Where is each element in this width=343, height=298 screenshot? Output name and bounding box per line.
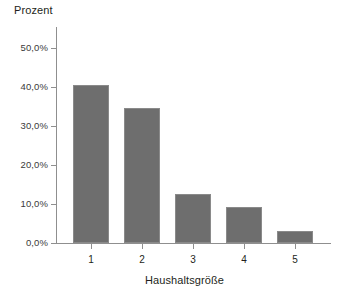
y-axis-tick: [51, 87, 56, 88]
x-axis-tick: [193, 244, 194, 249]
y-axis-tick: [51, 48, 56, 49]
x-axis-tick-label: 4: [226, 254, 262, 265]
x-axis-title: Haushaltsgröße: [0, 274, 343, 286]
y-axis-tick-label: 0,0%: [26, 237, 48, 248]
y-axis-tick-label: 50,0%: [21, 42, 48, 53]
x-axis-tick-label: 5: [277, 254, 313, 265]
x-axis-tick: [244, 244, 245, 249]
bar-chart: Prozent 0,0%10,0%20,0%30,0%40,0%50,0% 12…: [0, 0, 343, 298]
x-axis-tick: [91, 244, 92, 249]
y-axis-tick-label: 10,0%: [21, 198, 48, 209]
y-axis-tick: [51, 204, 56, 205]
plot-area: 0,0%10,0%20,0%30,0%40,0%50,0% 12345: [0, 0, 343, 298]
y-axis-tick: [51, 165, 56, 166]
x-axis-tick: [295, 244, 296, 249]
bar: [73, 85, 109, 243]
x-axis-tick-label: 1: [73, 254, 109, 265]
x-axis-tick-label: 3: [175, 254, 211, 265]
x-axis-tick: [142, 244, 143, 249]
y-axis-line: [56, 27, 57, 244]
y-axis-tick: [51, 126, 56, 127]
y-axis-tick-label: 40,0%: [21, 81, 48, 92]
bar: [124, 108, 160, 243]
y-axis-tick: [51, 243, 56, 244]
bar: [175, 194, 211, 243]
y-axis-tick-label: 30,0%: [21, 120, 48, 131]
bar: [277, 231, 313, 243]
y-axis-tick-label: 20,0%: [21, 159, 48, 170]
bar: [226, 207, 262, 243]
x-axis-tick-label: 2: [124, 254, 160, 265]
